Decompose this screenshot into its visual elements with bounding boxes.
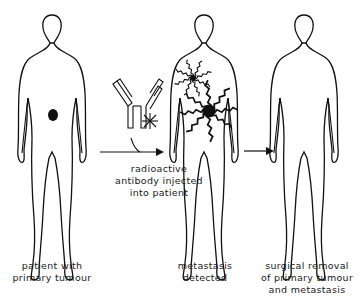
diagram-canvas: [0, 0, 362, 301]
primary-tumour-dot: [48, 109, 58, 121]
patient-figure: [18, 15, 86, 280]
metastasis-caption: metastasis detected: [160, 260, 250, 284]
patient-caption: patient with primary tumour: [0, 260, 104, 284]
asterisk-star-icon: [142, 113, 158, 129]
surgery-figure: [270, 15, 338, 280]
metastasis-figure: [170, 15, 238, 280]
right-arrow-icon: [100, 138, 164, 156]
step1-caption: radioactive antibody injected into patie…: [104, 163, 214, 199]
surgery-caption: surgical removal of primary tumour and m…: [252, 260, 362, 296]
